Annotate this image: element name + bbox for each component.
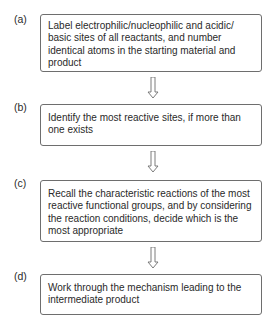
down-arrow-icon xyxy=(147,151,159,173)
step-text-d: Work through the mechanism leading to th… xyxy=(48,282,241,305)
down-arrow-icon xyxy=(147,77,159,99)
step-box-a: Label electrophilic/nucleophilic and aci… xyxy=(40,14,262,72)
step-box-b: Identify the most reactive sites, if mor… xyxy=(40,104,262,146)
step-label-b: (b) xyxy=(14,101,27,113)
step-text-a: Label electrophilic/nucleophilic and aci… xyxy=(48,20,235,68)
step-label-c: (c) xyxy=(14,177,26,189)
step-box-c: Recall the characteristic reactions of t… xyxy=(40,180,262,242)
step-label-d: (d) xyxy=(14,270,27,282)
step-label-a: (a) xyxy=(14,13,27,25)
step-box-d: Work through the mechanism leading to th… xyxy=(40,274,262,315)
step-text-b: Identify the most reactive sites, if mor… xyxy=(48,112,241,135)
down-arrow-icon xyxy=(147,247,159,269)
step-text-c: Recall the characteristic reactions of t… xyxy=(48,188,251,236)
